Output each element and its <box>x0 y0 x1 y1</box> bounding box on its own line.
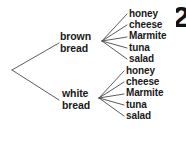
leaf-brown-marmite: Marmite <box>129 30 166 41</box>
leaf-brown-salad: salad <box>129 53 154 64</box>
node-brown-bread-line1: brown <box>60 31 91 43</box>
node-white-bread-line1: white <box>62 88 90 100</box>
branch-white-to-tuna <box>99 98 124 105</box>
leaf-white-marmite: Marmite <box>126 87 163 98</box>
leaf-white-salad: salad <box>126 110 151 121</box>
leaf-white-tuna: tuna <box>126 99 147 110</box>
question-number-text: 2 <box>176 6 186 32</box>
leaf-white-honey: honey <box>126 65 155 76</box>
leaf-brown-honey: honey <box>129 8 158 19</box>
node-brown-bread-line2: bread <box>60 43 91 55</box>
node-white-bread-line2: bread <box>62 100 90 112</box>
branch-brown-to-tuna <box>102 41 127 48</box>
question-number-mark: 2 <box>176 6 186 36</box>
branch-root-to-white <box>12 70 59 100</box>
branch-white-to-salad <box>99 98 124 116</box>
node-brown-bread: brown bread <box>60 31 91 54</box>
leaf-brown-cheese: cheese <box>129 19 162 30</box>
leaf-brown-tuna: tuna <box>129 42 150 53</box>
branch-root-to-brown <box>12 43 59 70</box>
leaf-white-cheese: cheese <box>126 76 159 87</box>
branch-brown-to-salad <box>102 41 127 59</box>
tree-diagram: brown bread honey cheese Marmite tuna sa… <box>0 0 186 146</box>
node-white-bread: white bread <box>62 88 90 111</box>
